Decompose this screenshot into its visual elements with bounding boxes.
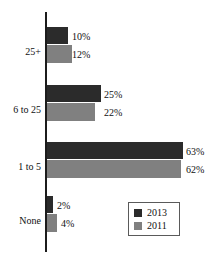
bar-none-2013 xyxy=(47,196,53,213)
category-label-6-to-25: 6 to 25 xyxy=(0,104,41,115)
bar-6-to-25-2013 xyxy=(47,85,101,102)
bar-value-none-2011: 4% xyxy=(61,218,74,229)
bar-value-25-plus-2011: 12% xyxy=(72,49,90,60)
legend-label-2011: 2011 xyxy=(147,221,167,231)
category-label-none: None xyxy=(0,215,41,226)
legend-swatch-icon-2013 xyxy=(134,209,142,217)
bar-value-1-to-5-2011: 62% xyxy=(186,164,204,175)
legend-label-2013: 2013 xyxy=(147,208,167,218)
bar-value-none-2013: 2% xyxy=(57,200,70,211)
bar-value-6-to-25-2011: 22% xyxy=(104,107,122,118)
bar-value-1-to-5-2013: 63% xyxy=(186,146,204,157)
bar-chart: 25+ 10% 12% 6 to 25 25% 22% 1 to 5 63% 6… xyxy=(0,0,212,262)
chart-legend: 2013 2011 xyxy=(128,202,180,236)
bar-6-to-25-2011 xyxy=(47,103,95,121)
bar-value-6-to-25-2013: 25% xyxy=(104,89,122,100)
bar-1-to-5-2013 xyxy=(47,142,183,159)
bar-none-2011 xyxy=(47,214,57,232)
category-label-25-plus: 25+ xyxy=(0,46,41,57)
bar-25-plus-2011 xyxy=(47,45,72,63)
bar-value-25-plus-2013: 10% xyxy=(72,31,90,42)
legend-swatch-icon-2011 xyxy=(134,222,142,230)
bar-1-to-5-2011 xyxy=(47,160,181,178)
legend-entry-2013: 2013 xyxy=(134,207,167,219)
bar-25-plus-2013 xyxy=(47,27,68,44)
category-label-1-to-5: 1 to 5 xyxy=(0,161,41,172)
legend-entry-2011: 2011 xyxy=(134,220,167,232)
